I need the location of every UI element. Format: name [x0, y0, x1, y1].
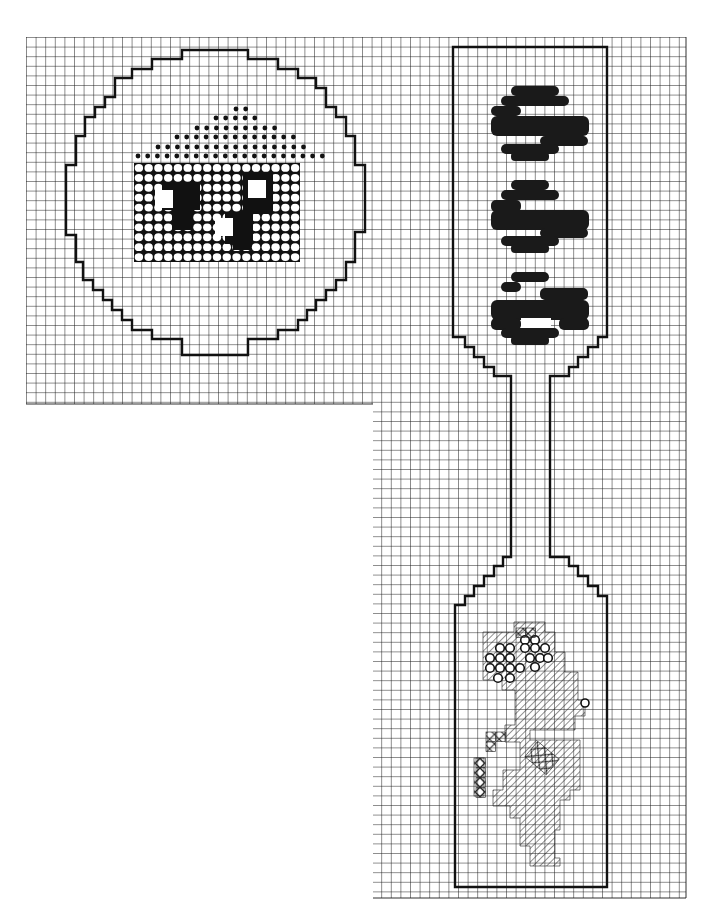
bud — [581, 699, 589, 707]
letter-a-counter — [521, 318, 551, 328]
vase-handle — [474, 758, 484, 796]
pattern-chart — [0, 0, 718, 911]
